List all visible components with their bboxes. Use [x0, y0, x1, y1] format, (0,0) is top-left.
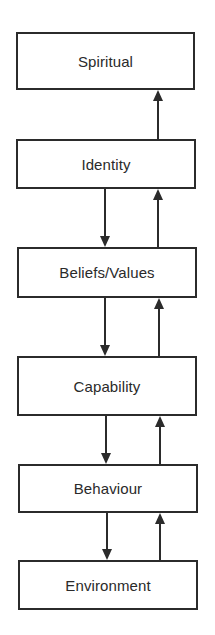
level-box-environment: Environment	[18, 560, 198, 610]
level-label-environment: Environment	[65, 577, 150, 594]
neurological-levels-diagram: Spiritual Identity Beliefs/Values Capabi…	[0, 0, 215, 635]
arrow-up-icon	[154, 298, 164, 356]
level-label-capability: Capability	[74, 378, 141, 395]
level-box-spiritual: Spiritual	[16, 32, 195, 90]
arrow-down-icon	[102, 513, 112, 560]
arrow-up-icon	[155, 416, 165, 464]
arrow-up-icon	[153, 90, 163, 139]
level-label-beliefs-values: Beliefs/Values	[59, 264, 154, 281]
arrow-up-icon	[153, 189, 163, 247]
arrow-down-icon	[100, 298, 110, 356]
arrow-down-icon	[101, 416, 111, 464]
level-box-identity: Identity	[16, 139, 196, 189]
arrow-down-icon	[100, 189, 110, 247]
level-box-capability: Capability	[17, 356, 197, 416]
arrow-up-icon	[155, 513, 165, 560]
level-label-behaviour: Behaviour	[74, 480, 142, 497]
level-box-behaviour: Behaviour	[18, 464, 198, 513]
level-label-spiritual: Spiritual	[78, 53, 133, 70]
connector-arrows	[0, 0, 215, 635]
level-box-beliefs-values: Beliefs/Values	[17, 247, 197, 298]
level-label-identity: Identity	[81, 156, 130, 173]
